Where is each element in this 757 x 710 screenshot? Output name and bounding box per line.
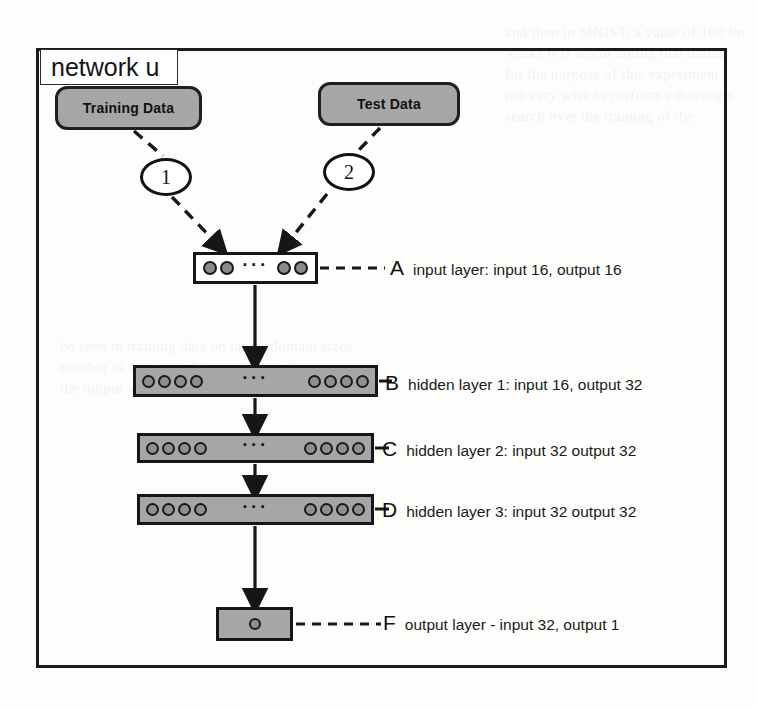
layer-label-a: A input layer: input 16, output 16 [390, 257, 622, 278]
ellipsis-indicator: ··· [242, 502, 268, 518]
layer-description-b: hidden layer 1: input 16, output 32 [408, 377, 642, 393]
layer-description-f: output layer - input 32, output 1 [405, 617, 620, 633]
neuron-node [162, 442, 175, 455]
diagram-canvas: network u Training Data Test Data 1 2 [0, 0, 757, 710]
layer-box-hidden-1[interactable]: ··· [133, 365, 378, 397]
layer-label-d: D hidden layer 3: input 32 output 32 [382, 499, 636, 520]
callout-marker-1: 1 [140, 158, 192, 196]
neuron-node [174, 375, 187, 388]
layer-description-a: input layer: input 16, output 16 [413, 262, 622, 278]
layer-box-hidden-2[interactable]: ··· [137, 433, 374, 463]
callout-marker-2: 2 [323, 153, 375, 191]
neuron-node [320, 442, 333, 455]
training-data-box[interactable]: Training Data [55, 86, 202, 130]
layer-box-input[interactable]: ··· [193, 252, 318, 284]
neuron-node [146, 503, 159, 516]
training-data-label: Training Data [83, 100, 174, 116]
layer-letter-c: C [382, 438, 397, 459]
node-group-left [146, 442, 207, 455]
neuron-node [142, 375, 155, 388]
layer-description-d: hidden layer 3: input 32 output 32 [406, 504, 636, 520]
layer-box-output[interactable] [216, 607, 293, 641]
neuron-node [194, 442, 207, 455]
ellipsis-indicator: ··· [242, 440, 268, 456]
layer-label-c: C hidden layer 2: input 32 output 32 [382, 438, 636, 459]
node-group-left [142, 375, 203, 388]
neuron-node [336, 442, 349, 455]
layer-box-hidden-3[interactable]: ··· [137, 494, 374, 525]
callout-marker-1-label: 1 [161, 167, 171, 187]
network-frame [36, 48, 727, 668]
layer-label-f: F output layer - input 32, output 1 [383, 612, 619, 633]
layer-letter-b: B [385, 372, 399, 393]
neuron-node [336, 503, 349, 516]
layer-letter-d: D [382, 499, 397, 520]
node-group-left [146, 503, 207, 516]
ellipsis-indicator: ··· [242, 260, 268, 276]
callout-marker-2-label: 2 [344, 162, 354, 182]
neuron-node [158, 375, 171, 388]
neuron-node [162, 503, 175, 516]
neuron-node [352, 503, 365, 516]
neuron-node [320, 503, 333, 516]
neuron-node [178, 442, 191, 455]
neuron-node [356, 375, 369, 388]
neuron-node [304, 442, 317, 455]
neuron-node [190, 375, 203, 388]
network-title-tab: network u [40, 49, 178, 85]
layer-letter-a: A [390, 257, 404, 278]
layer-letter-f: F [383, 612, 396, 633]
node-group-right [308, 375, 369, 388]
neuron-node [352, 442, 365, 455]
neuron-node [308, 375, 321, 388]
test-data-label: Test Data [357, 96, 421, 112]
layer-label-b: B hidden layer 1: input 16, output 32 [385, 372, 642, 393]
node-group-right [277, 261, 308, 275]
neuron-node [340, 375, 353, 388]
layer-description-c: hidden layer 2: input 32 output 32 [406, 443, 636, 459]
node-group-right [304, 503, 365, 516]
neuron-node [203, 261, 217, 275]
ellipsis-indicator: ··· [242, 373, 268, 389]
network-title-label: network u [51, 55, 159, 80]
neuron-node [194, 503, 207, 516]
neuron-node [220, 261, 234, 275]
neuron-node [178, 503, 191, 516]
test-data-box[interactable]: Test Data [318, 82, 460, 126]
neuron-node [249, 618, 261, 630]
node-group-left [203, 261, 234, 275]
neuron-node [304, 503, 317, 516]
neuron-node [277, 261, 291, 275]
node-group-right [304, 442, 365, 455]
neuron-node [146, 442, 159, 455]
neuron-node [294, 261, 308, 275]
neuron-node [324, 375, 337, 388]
